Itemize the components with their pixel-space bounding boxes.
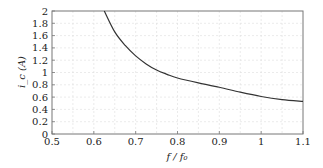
y-tick-label: 0: [42, 129, 48, 140]
x-axis-label: f / f₀: [165, 151, 187, 162]
y-tick-label: 0.2: [32, 116, 48, 127]
x-tick-label: 1.1: [295, 136, 311, 147]
y-tick-label: 0.6: [32, 92, 48, 103]
series-lines: [104, 11, 303, 101]
x-tick-label: 0.8: [170, 136, 186, 147]
y-tick-label: 1.6: [32, 30, 48, 41]
y-tick-label: 1.2: [32, 55, 48, 66]
y-tick-label: 2: [42, 6, 48, 17]
grid: [52, 11, 303, 134]
series-line-i_c: [104, 11, 303, 101]
x-tick-label: 0.6: [86, 136, 102, 147]
y-tick-label: 1: [42, 67, 48, 78]
y-tick-label: 0.8: [32, 79, 48, 90]
y-tick-label: 0.4: [32, 104, 48, 115]
y-axis-label: i_c (A): [16, 56, 28, 88]
x-tick-label: 0.7: [128, 136, 144, 147]
y-tick-label: 1.8: [32, 18, 48, 29]
x-axis: 0.50.60.70.80.911.1: [44, 131, 311, 147]
y-tick-label: 1.4: [32, 42, 48, 53]
chart: 0.50.60.70.80.911.1 00.20.40.60.811.21.4…: [0, 0, 323, 168]
x-tick-label: 0.9: [211, 136, 227, 147]
x-tick-label: 1: [258, 136, 264, 147]
